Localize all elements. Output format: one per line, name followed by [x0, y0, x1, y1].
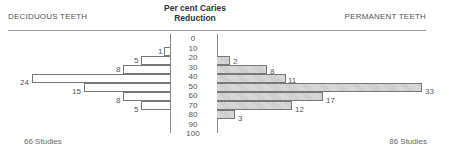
permanent-studies-count: 86 Studies [389, 137, 427, 146]
deciduous-value-30: 8 [116, 65, 120, 74]
chart-title: Per cent Caries Reduction [150, 3, 240, 23]
tick-50: 50 [173, 82, 213, 92]
permanent-bar-30 [217, 65, 267, 74]
tick-60: 60 [173, 91, 213, 101]
chart-title-line2: Reduction [150, 13, 240, 23]
tick-100: 100 [173, 129, 213, 139]
deciduous-value-50: 15 [72, 87, 81, 96]
permanent-value-60: 17 [326, 96, 335, 105]
deciduous-value-70: 5 [134, 105, 138, 114]
deciduous-bar-60 [123, 92, 170, 101]
deciduous-studies-count: 66 Studies [24, 137, 62, 146]
permanent-value-80: 3 [238, 114, 242, 123]
deciduous-bar-30 [123, 65, 170, 74]
deciduous-bar-70 [141, 101, 170, 110]
permanent-value-50: 33 [425, 87, 434, 96]
deciduous-bar-40 [32, 74, 170, 83]
deciduous-bar-10 [164, 47, 170, 56]
tick-40: 40 [173, 72, 213, 82]
left-axis-line [170, 34, 171, 133]
tick-80: 80 [173, 110, 213, 120]
permanent-value-70: 12 [295, 105, 304, 114]
deciduous-value-60: 8 [116, 96, 120, 105]
permanent-bar-70 [217, 101, 292, 110]
permanent-bar-40 [217, 74, 286, 83]
tick-30: 30 [173, 63, 213, 73]
header-divider [8, 30, 426, 31]
permanent-teeth-label: PERMANENT TEETH [345, 12, 426, 21]
permanent-bar-50 [217, 83, 422, 92]
deciduous-bar-20 [141, 56, 170, 65]
permanent-bar-60 [217, 92, 323, 101]
permanent-bar-80 [217, 110, 235, 119]
tick-0: 0 [173, 34, 213, 44]
tick-70: 70 [173, 101, 213, 111]
deciduous-value-10: 1 [158, 47, 162, 56]
permanent-bar-20 [217, 56, 230, 65]
tick-90: 90 [173, 120, 213, 130]
deciduous-value-40: 24 [20, 78, 29, 87]
chart-title-line1: Per cent Caries [150, 3, 240, 13]
deciduous-teeth-label: DECIDUOUS TEETH [8, 12, 87, 21]
deciduous-bar-50 [84, 83, 170, 92]
tick-10: 10 [173, 44, 213, 54]
tick-20: 20 [173, 53, 213, 63]
deciduous-value-20: 5 [134, 56, 138, 65]
